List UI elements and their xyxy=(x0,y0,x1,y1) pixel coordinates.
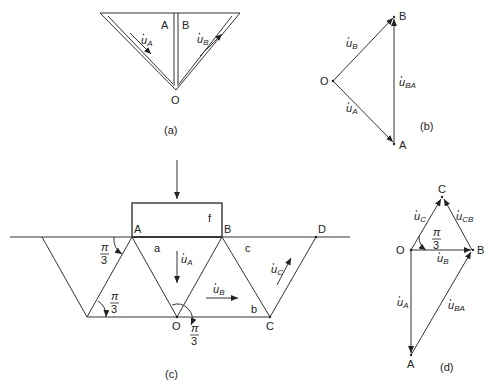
slip-line xyxy=(42,237,87,317)
point-label-O: O xyxy=(320,75,329,87)
dot-accent xyxy=(215,283,217,285)
panel-d: O B C A uC uCB uB uA uBA π 3 (d) xyxy=(396,183,484,373)
angle-arc xyxy=(419,236,426,250)
vector-uA xyxy=(334,82,393,142)
point-D xyxy=(315,236,317,238)
point-label-B: B xyxy=(477,244,484,256)
svg-text:3: 3 xyxy=(111,303,117,315)
dot-accent xyxy=(450,299,452,301)
vector-uB xyxy=(334,18,393,80)
point-label-B: B xyxy=(182,19,189,31)
dot-accent xyxy=(199,33,201,35)
point-label-D: D xyxy=(318,223,326,235)
point-B xyxy=(472,249,474,251)
point-label-A: A xyxy=(161,19,169,31)
vector-label-uCB: uCB xyxy=(456,210,474,224)
region-label-a: a xyxy=(154,242,161,254)
vector-label-uBA: uBA xyxy=(399,76,416,90)
dot-accent xyxy=(458,210,460,212)
dot-accent xyxy=(401,76,403,78)
velocity-label-uC: uC xyxy=(271,263,283,277)
wedge-outline xyxy=(100,13,240,90)
angle-arc xyxy=(98,301,106,317)
dot-accent xyxy=(399,296,401,298)
panel-b: O B A uB uA uBA (b) xyxy=(320,10,433,151)
angle-label-pi-over-3: π 3 xyxy=(110,290,119,315)
caption-c: (c) xyxy=(165,368,178,380)
angle-arc xyxy=(114,237,122,254)
point-label-A: A xyxy=(134,223,142,235)
point-label-C: C xyxy=(266,320,274,332)
point-label-B: B xyxy=(224,223,231,235)
angle-label-pi-over-3: π 3 xyxy=(190,322,199,347)
svg-text:π: π xyxy=(433,226,441,238)
point-label-O: O xyxy=(171,94,180,106)
point-label-B: B xyxy=(399,10,406,22)
point-C xyxy=(269,316,271,318)
slip-line xyxy=(270,237,316,317)
point-C xyxy=(441,196,443,198)
slip-line xyxy=(87,237,132,317)
dot-accent xyxy=(348,102,350,104)
svg-text:π: π xyxy=(111,290,119,302)
region-label-f: f xyxy=(208,212,212,224)
vector-label-uA: uA xyxy=(397,296,408,310)
point-label-C: C xyxy=(438,183,446,195)
point-O xyxy=(176,316,178,318)
svg-text:3: 3 xyxy=(433,239,439,251)
svg-text:π: π xyxy=(101,241,109,253)
velocity-label-uA: uA xyxy=(141,34,152,48)
velocity-label-uA: uA xyxy=(181,253,192,267)
point-O xyxy=(410,249,413,252)
dot-accent xyxy=(416,210,418,212)
point-label-A: A xyxy=(407,358,415,370)
caption-d: (d) xyxy=(440,361,453,373)
vector-label-uBA: uBA xyxy=(448,299,465,313)
vector-label-uB: uB xyxy=(437,252,449,266)
svg-text:π: π xyxy=(191,322,199,334)
vector-uCB xyxy=(444,199,472,250)
dot-accent xyxy=(183,253,185,255)
panel-c: A B D O C f a b c uA uB uC π 3 π xyxy=(10,160,350,380)
dot-accent xyxy=(348,37,350,39)
figure: A B O uA uB (a) O B A uB uA uBA (b) xyxy=(0,0,495,385)
point-label-O: O xyxy=(396,244,405,256)
dot-accent xyxy=(273,263,275,265)
point-B xyxy=(393,16,395,18)
angle-label-pi-over-3: π 3 xyxy=(100,241,109,266)
svg-text:3: 3 xyxy=(191,335,197,347)
point-A xyxy=(393,143,395,145)
caption-b: (b) xyxy=(420,120,433,132)
caption-a: (a) xyxy=(164,124,177,136)
dot-accent xyxy=(439,252,441,254)
point-O xyxy=(332,80,335,83)
dot-accent xyxy=(143,34,145,36)
panel-a: A B O uA uB (a) xyxy=(100,13,240,136)
svg-text:3: 3 xyxy=(101,254,107,266)
point-A xyxy=(410,354,412,356)
vector-label-uB: uB xyxy=(346,37,358,51)
region-label-c: c xyxy=(245,242,251,254)
region-label-b: b xyxy=(251,303,257,315)
point-label-O: O xyxy=(172,320,181,332)
angle-label-pi-over-3: π 3 xyxy=(432,226,441,251)
point-label-A: A xyxy=(399,139,407,151)
velocity-label-uB: uB xyxy=(213,283,225,297)
vector-label-uC: uC xyxy=(414,210,426,224)
velocity-label-uB: uB xyxy=(197,33,209,47)
